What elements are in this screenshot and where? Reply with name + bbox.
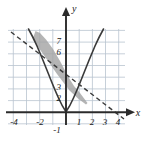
coordinate-plane-chart: y x -4 -2 -1 1 2 3 4 7 6 3 2 bbox=[0, 0, 148, 145]
x-tick-label--1: -1 bbox=[53, 125, 61, 135]
y-tick-label-7: 7 bbox=[57, 36, 62, 46]
x-tick-label-3: 3 bbox=[102, 117, 108, 127]
x-tick-label-1: 1 bbox=[77, 117, 82, 127]
dashed-boundary-line bbox=[11, 32, 124, 119]
x-tick-label--2: -2 bbox=[36, 117, 44, 127]
x-tick-label-4: 4 bbox=[116, 117, 121, 127]
y-tick-label-3: 3 bbox=[56, 82, 62, 92]
y-tick-label-2: 2 bbox=[57, 93, 62, 103]
x-tick-label-2: 2 bbox=[90, 117, 95, 127]
x-axis bbox=[6, 108, 135, 116]
x-tick-label--4: -4 bbox=[10, 117, 18, 127]
x-axis-label: x bbox=[135, 107, 141, 118]
y-tick-label-6: 6 bbox=[57, 47, 62, 57]
y-axis-label: y bbox=[71, 3, 77, 14]
graph-figure: y x -4 -2 -1 1 2 3 4 7 6 3 2 bbox=[0, 0, 148, 145]
